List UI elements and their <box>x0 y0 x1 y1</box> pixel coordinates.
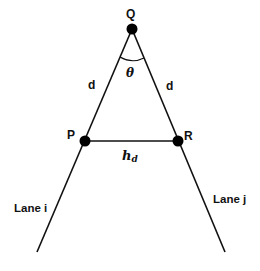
point-q <box>127 24 138 35</box>
diagram-svg: Q P R θ d d hd Lane i Lane j <box>0 0 260 271</box>
angle-arc <box>120 57 144 61</box>
lane-geometry-diagram: Q P R θ d d hd Lane i Lane j <box>0 0 260 271</box>
label-p: P <box>67 128 75 142</box>
label-lane-i: Lane i <box>14 202 47 214</box>
label-d-left: d <box>88 78 95 92</box>
label-hd-subscript: d <box>131 154 138 164</box>
label-hd-main: h <box>122 148 131 163</box>
label-q: Q <box>126 7 135 21</box>
label-lane-j: Lane j <box>213 193 246 205</box>
point-r <box>173 136 184 147</box>
label-theta: θ <box>126 66 134 80</box>
label-r: R <box>184 129 193 143</box>
label-hd: hd <box>122 148 138 164</box>
label-d-right: d <box>166 79 173 93</box>
point-p <box>80 136 91 147</box>
